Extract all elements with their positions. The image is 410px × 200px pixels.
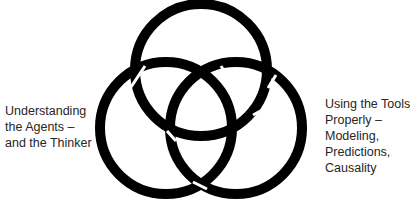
right-label-line: Modeling,	[325, 128, 410, 144]
right-label-line: Predictions,	[325, 144, 410, 160]
left-label: Understanding the Agents – and the Think…	[5, 103, 92, 151]
right-label-line: Causality	[325, 160, 410, 176]
right-label: Using the Tools Properly – Modeling, Pre…	[325, 96, 410, 176]
left-label-line: the Agents –	[5, 119, 92, 135]
left-label-line: and the Thinker	[5, 135, 92, 151]
right-label-line: Properly –	[325, 112, 410, 128]
right-label-line: Using the Tools	[325, 96, 410, 112]
left-label-line: Understanding	[5, 103, 92, 119]
